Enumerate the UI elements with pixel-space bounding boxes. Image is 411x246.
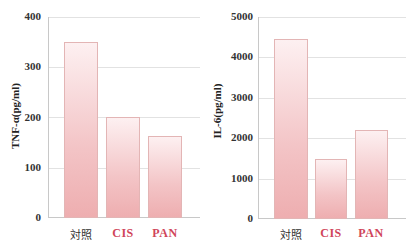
- bar-pan: [355, 130, 388, 219]
- bar-cis: [106, 117, 140, 218]
- tnf-alpha-chart: TNF-α(pg/ml) 400 300 200 100 0 対照 CIS PA…: [0, 0, 205, 246]
- x-label-pan: PAN: [346, 226, 396, 241]
- y-tick: 5000: [217, 10, 253, 22]
- y-tick: 1000: [217, 172, 253, 184]
- bar-control: [274, 39, 308, 219]
- y-tick: 400: [5, 10, 41, 22]
- y-axis: [258, 17, 259, 219]
- x-label-pan: PAN: [140, 226, 190, 241]
- gridline: [48, 17, 200, 18]
- y-tick: 0: [5, 211, 41, 223]
- y-tick: 300: [5, 60, 41, 72]
- plot-area: [258, 17, 406, 219]
- bar-pan: [148, 136, 182, 218]
- il6-chart: IL-6(pg/ml) 5000 4000 3000 2000 1000 0 対…: [205, 0, 411, 246]
- y-tick: 2000: [217, 131, 253, 143]
- bar-cis: [315, 159, 347, 219]
- bar-control: [64, 42, 98, 218]
- y-tick: 4000: [217, 50, 253, 62]
- gridline: [258, 17, 406, 18]
- y-tick: 100: [5, 161, 41, 173]
- y-axis: [48, 17, 49, 218]
- y-tick: 3000: [217, 91, 253, 103]
- plot-area: [48, 17, 200, 218]
- y-tick: 0: [217, 212, 253, 224]
- y-axis-label: IL-6(pg/ml): [211, 41, 223, 181]
- y-tick: 200: [5, 111, 41, 123]
